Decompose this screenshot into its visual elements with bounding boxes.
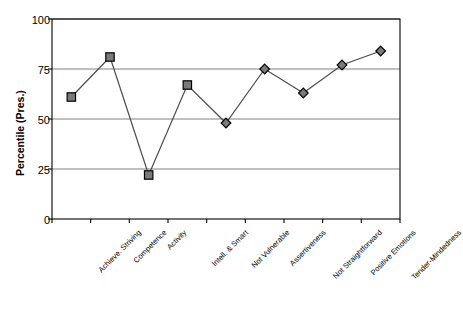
x-axis-label-8: Tender-Mindedness [409, 228, 463, 282]
data-series-line [71, 51, 380, 175]
gridlines [52, 19, 400, 169]
data-point-8 [376, 46, 386, 56]
data-point-2 [144, 171, 152, 179]
data-point-0 [67, 93, 75, 101]
data-point-5 [260, 64, 270, 74]
data-point-3 [183, 81, 191, 89]
data-point-1 [106, 53, 114, 61]
data-point-7 [337, 60, 347, 70]
x-axis-ticks [52, 219, 400, 223]
data-series-markers [67, 46, 385, 179]
data-point-6 [299, 88, 309, 98]
